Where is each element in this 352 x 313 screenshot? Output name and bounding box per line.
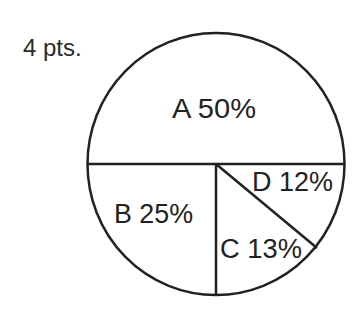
slice-label-a: A 50% [172, 94, 256, 124]
slice-label-c: C 13% [220, 234, 302, 264]
slice-label-b: B 25% [114, 199, 193, 229]
slice-label-d: D 12% [252, 167, 333, 197]
pie-chart: A 50% B 25% C 13% D 12% [0, 0, 352, 313]
